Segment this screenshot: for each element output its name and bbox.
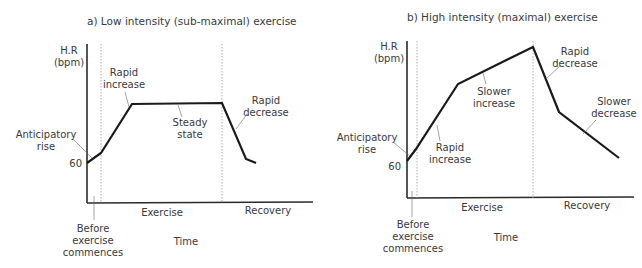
chart-b-rapid-decrease-label-1: Rapid: [561, 46, 589, 57]
heart-rate-charts: a) Low intensity (sub-maximal) exercise …: [0, 0, 642, 268]
chart-b-rapid-increase-label-2: increase: [429, 154, 471, 165]
chart-a-hr-line: [87, 103, 256, 163]
chart-a-before-label-1: Before: [77, 223, 110, 234]
chart-a-exercise-label: Exercise: [141, 207, 183, 218]
chart-a-steady-state-label-1: Steady: [173, 117, 208, 128]
chart-b-anticipatory-label-1: Anticipatory: [337, 132, 398, 143]
chart-a: a) Low intensity (sub-maximal) exercise …: [16, 15, 313, 258]
chart-a-ylabel-line2: (bpm): [54, 57, 84, 68]
chart-b-ylabel-line1: H.R: [380, 41, 398, 52]
chart-a-rapid-decrease-label-1: Rapid: [252, 95, 280, 106]
chart-b-slower-decrease-label-2: decrease: [591, 108, 637, 119]
chart-a-rapid-decrease-pointer: [236, 114, 247, 129]
chart-a-time-label: Time: [173, 236, 198, 247]
chart-a-rapid-decrease-label-2: decrease: [243, 107, 289, 118]
chart-a-anticipatory-label-1: Anticipatory: [16, 129, 77, 140]
chart-b: b) High intensity (maximal) exercise H.R…: [337, 11, 637, 254]
chart-b-slower-decrease-pointer: [583, 120, 596, 134]
chart-b-rapid-decrease-label-2: decrease: [552, 58, 598, 69]
chart-a-steady-state-pointer: [178, 105, 182, 117]
chart-b-rapid-increase-pointer: [437, 125, 440, 141]
chart-b-slower-increase-pointer: [483, 73, 486, 84]
chart-b-x-axis: [407, 197, 634, 198]
chart-b-rapid-increase-label-1: Rapid: [436, 142, 464, 153]
chart-a-rapid-increase-label-2: increase: [103, 79, 145, 90]
chart-a-recovery-label: Recovery: [245, 205, 291, 216]
chart-b-exercise-label: Exercise: [461, 202, 503, 213]
chart-b-recovery-label: Recovery: [564, 200, 610, 211]
chart-b-slower-decrease-label-1: Slower: [597, 96, 632, 107]
chart-a-steady-state-label-2: state: [177, 129, 202, 140]
chart-a-x-axis: [87, 202, 313, 203]
chart-a-anticipatory-label-2: rise: [37, 141, 55, 152]
chart-b-before-label-1: Before: [397, 219, 430, 230]
chart-a-anticipatory-pointer: [73, 139, 92, 158]
chart-a-title: a) Low intensity (sub-maximal) exercise: [87, 15, 297, 27]
chart-a-rapid-increase-label-1: Rapid: [110, 67, 138, 78]
chart-a-rapid-increase-pointer: [125, 92, 129, 107]
chart-b-anticipatory-label-2: rise: [358, 144, 376, 155]
chart-a-ytick-60: 60: [69, 158, 82, 169]
chart-b-ylabel-line2: (bpm): [374, 53, 404, 64]
chart-b-time-label: Time: [493, 232, 518, 243]
chart-b-title: b) High intensity (maximal) exercise: [407, 11, 598, 23]
chart-b-slower-increase-label-2: increase: [473, 98, 515, 109]
chart-a-ylabel-line1: H.R: [60, 45, 78, 56]
chart-b-ytick-60: 60: [388, 161, 401, 172]
chart-b-before-label-3: commences: [383, 243, 443, 254]
chart-a-before-label-3: commences: [63, 247, 123, 258]
chart-a-before-label-2: exercise: [72, 235, 113, 246]
chart-b-slower-increase-label-1: Slower: [477, 86, 512, 97]
chart-b-before-label-2: exercise: [392, 231, 433, 242]
